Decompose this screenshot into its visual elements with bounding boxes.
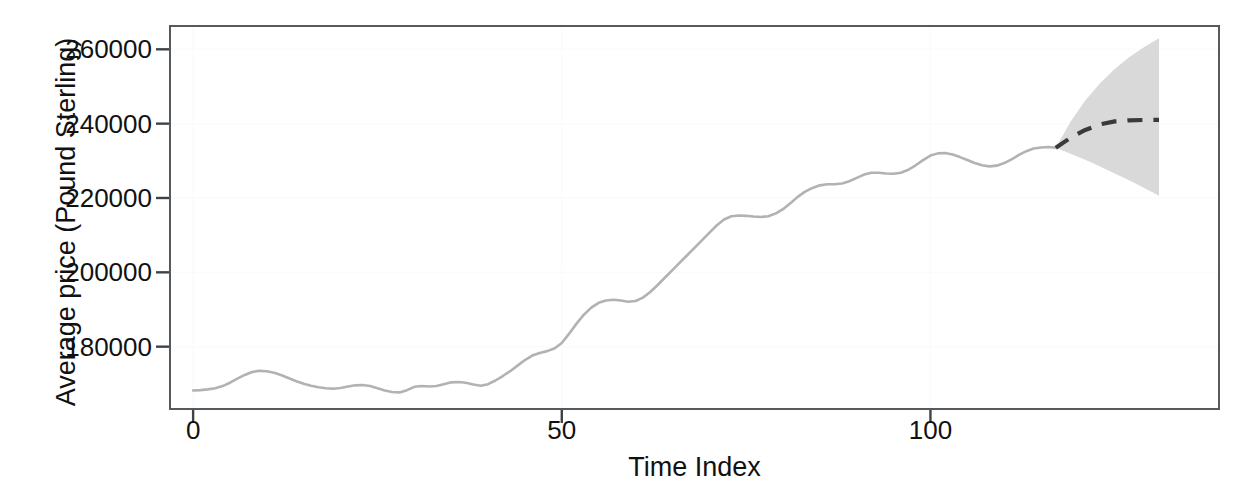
forecast-confidence-band	[1056, 38, 1159, 196]
y-tick-label: 240000	[65, 109, 152, 140]
observed-series-line	[193, 147, 1056, 392]
y-tick-label: 220000	[65, 183, 152, 214]
plot-area	[169, 25, 1220, 410]
chart-figure: Average price (Pound Sterling) 180000200…	[0, 0, 1259, 499]
y-tick-label: 260000	[65, 34, 152, 65]
y-axis-tick-labels: 180000200000220000240000260000	[0, 0, 152, 499]
x-axis-title: Time Index	[169, 452, 1220, 483]
x-tick-label: 100	[909, 415, 952, 446]
y-tick-label: 200000	[65, 257, 152, 288]
plot-svg	[171, 27, 1218, 408]
x-tick-label: 50	[547, 415, 576, 446]
y-tick-label: 180000	[65, 332, 152, 363]
x-tick-label: 0	[186, 415, 200, 446]
gridlines	[171, 27, 1218, 408]
